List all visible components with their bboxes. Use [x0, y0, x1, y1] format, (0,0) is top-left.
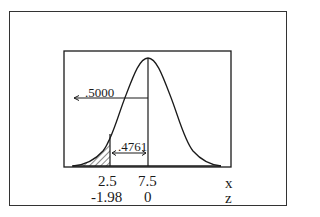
x-axis-label: x: [225, 176, 233, 191]
area-between-label: .4761: [118, 139, 147, 154]
z-tick-0: 0: [144, 190, 152, 205]
x-tick-7.5: 7.5: [138, 174, 157, 189]
x-tick-2.5: 2.5: [98, 174, 117, 189]
z-axis-label: z: [225, 191, 232, 206]
area-left-label: .5000: [85, 85, 114, 100]
z-tick-neg1.98: -1.98: [91, 190, 122, 205]
